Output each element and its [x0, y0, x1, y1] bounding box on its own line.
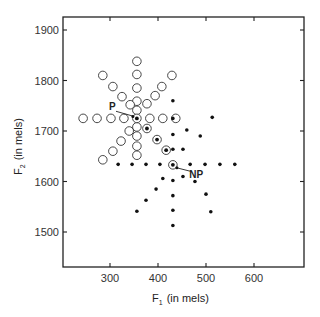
- open-circle-point: [107, 114, 116, 123]
- open-circle-point: [99, 155, 108, 164]
- filled-dot-point: [218, 163, 222, 167]
- filled-dot-point: [135, 209, 139, 213]
- filled-dot-point: [116, 163, 120, 167]
- filled-dot-point: [188, 163, 192, 167]
- vowel-formant-scatter-chart: 300400500600 15001600170018001900 PNP F1…: [0, 0, 320, 317]
- filled-dot-point: [144, 163, 148, 167]
- open-circle-point: [151, 91, 160, 100]
- open-circle-point: [168, 71, 177, 80]
- open-circle-point: [133, 151, 142, 160]
- open-circle-point: [117, 137, 126, 146]
- filled-dot-point: [185, 128, 189, 132]
- filled-dot-point: [233, 163, 237, 167]
- open-circle-point: [93, 114, 102, 123]
- y-tick-label: 1800: [35, 75, 59, 87]
- annotation-p: P: [109, 101, 116, 112]
- filled-dot-point: [171, 117, 175, 121]
- open-circle-point: [143, 99, 152, 108]
- filled-dot-point: [171, 179, 175, 183]
- filled-dot-point: [158, 163, 162, 167]
- y-tick-label: 1500: [35, 226, 59, 238]
- filled-dot-point: [171, 224, 175, 228]
- open-circle-point: [133, 57, 142, 66]
- filled-dot-point: [171, 133, 175, 137]
- filled-dot-point: [171, 208, 175, 212]
- x-tick-label: 600: [245, 272, 263, 284]
- filled-dot-point: [161, 177, 165, 181]
- x-tick-label: 300: [101, 272, 119, 284]
- y-axis-title: F2(in mels): [12, 118, 26, 175]
- open-circle-point: [99, 71, 108, 80]
- open-circle-point: [126, 100, 135, 109]
- data-points: [79, 57, 237, 227]
- filled-dot-point: [181, 175, 185, 179]
- open-circle-point: [146, 114, 155, 123]
- open-circle-point: [133, 132, 142, 141]
- open-circle-point: [159, 114, 168, 123]
- open-circle-point: [79, 114, 88, 123]
- filled-dot-point: [204, 192, 208, 196]
- open-circle-point: [120, 114, 129, 123]
- annotation-np: NP: [189, 169, 203, 180]
- filled-dot-point: [130, 163, 134, 167]
- x-axis-title: F1(in mels): [152, 292, 209, 306]
- open-circle-point: [133, 84, 142, 93]
- y-axis-ticks: 15001600170018001900: [35, 24, 304, 238]
- filled-dot-point: [181, 147, 185, 151]
- open-circle-point: [133, 70, 142, 79]
- open-circle-point: [158, 82, 167, 91]
- y-tick-label: 1700: [35, 125, 59, 137]
- open-circle-point: [118, 92, 127, 101]
- open-circle-point: [133, 142, 142, 151]
- open-circle-point: [109, 82, 118, 91]
- open-circle-point: [125, 127, 134, 136]
- x-tick-label: 500: [197, 272, 215, 284]
- filled-dot-point: [209, 210, 213, 214]
- y-tick-label: 1600: [35, 176, 59, 188]
- filled-dot-point: [171, 147, 175, 151]
- filled-dot-point: [171, 194, 175, 198]
- x-tick-label: 400: [149, 272, 167, 284]
- filled-dot-point: [198, 134, 202, 138]
- filled-dot-point: [203, 163, 207, 167]
- open-circle-point: [133, 123, 142, 132]
- plot-border: [63, 17, 304, 267]
- y-tick-label: 1900: [35, 24, 59, 36]
- open-circle-point: [109, 147, 118, 156]
- filled-dot-point: [154, 187, 158, 191]
- filled-dot-point: [171, 99, 175, 103]
- plot-frame: [63, 17, 304, 267]
- filled-dot-point: [210, 116, 214, 120]
- filled-dot-point: [144, 198, 148, 202]
